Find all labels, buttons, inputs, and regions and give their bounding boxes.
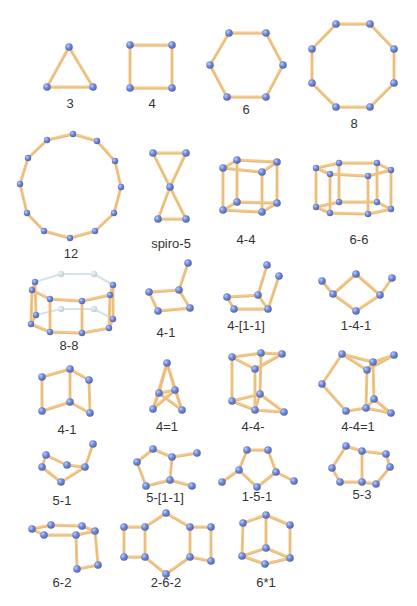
structure-label: spiro-5 bbox=[151, 236, 191, 251]
structure-label: 6-6 bbox=[350, 232, 369, 247]
atom-node bbox=[365, 173, 371, 179]
atom-node bbox=[44, 137, 50, 143]
atom-node bbox=[233, 198, 241, 206]
atom-node bbox=[251, 365, 259, 373]
atom-node bbox=[67, 235, 73, 241]
structure-s4eq1: 4=1 bbox=[149, 359, 186, 434]
atom-node bbox=[110, 316, 116, 322]
structure-label: 8-8 bbox=[60, 338, 79, 353]
atom-node bbox=[168, 453, 176, 461]
atom-node bbox=[126, 41, 134, 49]
atom-node bbox=[126, 84, 134, 92]
atom-node bbox=[390, 351, 398, 359]
structure-s5_11: 5-[1-1] bbox=[133, 445, 201, 505]
bond-shadow bbox=[312, 25, 336, 50]
atom-node bbox=[79, 298, 85, 304]
atom-node bbox=[264, 305, 272, 313]
atom-node bbox=[366, 103, 374, 111]
structure-label: 4-1 bbox=[58, 422, 77, 437]
atom-node bbox=[336, 199, 342, 205]
bond bbox=[145, 557, 166, 574]
bond-shadow bbox=[266, 34, 283, 66]
atom-node bbox=[308, 45, 316, 53]
structure-s44m: 4-4- bbox=[228, 349, 288, 434]
structure-label: 4-4- bbox=[241, 419, 264, 434]
atom-node bbox=[342, 442, 350, 450]
atom-node bbox=[17, 181, 23, 187]
atom-node bbox=[254, 291, 262, 299]
bond bbox=[27, 213, 44, 231]
atom-node bbox=[272, 468, 280, 476]
bond bbox=[42, 402, 70, 411]
bond bbox=[232, 357, 255, 369]
atom-node bbox=[92, 228, 98, 234]
structure-s44: 4-4 bbox=[219, 156, 281, 247]
atom-node bbox=[94, 138, 100, 144]
atom-node bbox=[256, 390, 264, 398]
bond bbox=[316, 202, 339, 207]
atom-node bbox=[238, 552, 246, 560]
atom-node bbox=[154, 215, 162, 223]
atom-node bbox=[336, 478, 344, 486]
atom-node bbox=[338, 350, 346, 358]
atom-node bbox=[42, 451, 50, 459]
atom-node bbox=[38, 463, 46, 471]
atom-node bbox=[342, 407, 350, 415]
structure-label: 4-4=1 bbox=[341, 419, 375, 434]
atom-node bbox=[145, 288, 153, 296]
structure-s41b: 4-1 bbox=[38, 365, 94, 437]
atom-node bbox=[223, 293, 231, 301]
atom-node bbox=[388, 274, 396, 282]
atom-node bbox=[332, 20, 340, 28]
atom-node bbox=[166, 183, 174, 191]
atom-node bbox=[228, 353, 236, 361]
atom-node bbox=[223, 93, 231, 101]
bond bbox=[61, 467, 85, 482]
atom-node bbox=[168, 41, 176, 49]
bond bbox=[266, 548, 290, 558]
bond-shadow bbox=[312, 84, 336, 108]
structure-s6s1: 6*1 bbox=[238, 511, 294, 590]
atom-node bbox=[388, 167, 394, 173]
atom-node bbox=[387, 409, 395, 417]
bond-shadow bbox=[61, 468, 85, 483]
structure-label: 1-4-1 bbox=[341, 318, 371, 333]
atom-node bbox=[72, 531, 80, 539]
bond bbox=[265, 558, 290, 564]
atom-node bbox=[85, 376, 93, 384]
bond bbox=[73, 134, 97, 141]
structure-label: 12 bbox=[64, 246, 78, 261]
atom-node bbox=[275, 272, 283, 280]
atom-node bbox=[91, 306, 97, 312]
atom-node bbox=[47, 329, 53, 335]
atom-node bbox=[40, 531, 48, 539]
bond bbox=[333, 294, 356, 311]
atom-node bbox=[206, 61, 214, 69]
atom-node bbox=[107, 292, 113, 298]
structure-label: 4-4 bbox=[237, 232, 256, 247]
atom-node bbox=[257, 349, 265, 357]
atom-node bbox=[133, 458, 141, 466]
bond bbox=[266, 515, 290, 525]
structure-label: 4-1 bbox=[157, 325, 176, 340]
bond-shadow bbox=[170, 188, 186, 220]
bond bbox=[82, 295, 110, 301]
atom-node bbox=[175, 286, 183, 294]
bond bbox=[368, 170, 391, 176]
atom-node bbox=[318, 380, 326, 388]
atom-node bbox=[258, 168, 266, 176]
bond-shadow bbox=[356, 275, 380, 296]
atom-node bbox=[25, 155, 31, 161]
atom-node bbox=[89, 83, 97, 91]
structure-s62: 6-2 bbox=[28, 521, 102, 590]
atom-node bbox=[308, 79, 316, 87]
atom-node bbox=[218, 478, 226, 486]
atom-node bbox=[81, 463, 89, 471]
bond bbox=[95, 213, 114, 231]
bond-shadow bbox=[42, 403, 70, 412]
atom-node bbox=[358, 478, 366, 486]
atom-node bbox=[186, 304, 194, 312]
atom-node bbox=[184, 259, 192, 267]
structure-label: 4 bbox=[148, 96, 155, 111]
atom-node bbox=[78, 522, 86, 530]
